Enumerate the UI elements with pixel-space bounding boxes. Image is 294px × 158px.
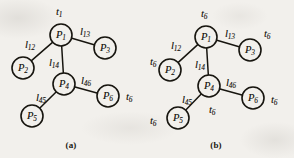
link-label-l45: l45 [182,95,192,106]
time-label-t6-at-P4: t6 [209,105,216,116]
link-label-l46: l46 [226,78,236,89]
panel-b: P1P2P3P4P5P6l12l13l14l45l46t6t6t6t6t6t6 … [147,0,294,158]
panel-b-labels: P1P2P3P4P5P6l12l13l14l45l46t6t6t6t6t6t6 [0,0,294,158]
time-label-t6-at-P1: t6 [201,9,208,20]
node-label-p4: P4 [204,81,214,92]
node-label-p6: P6 [248,93,258,104]
time-label-t6-at-P2: t6 [150,57,157,68]
time-label-subscript: 6 [153,61,157,69]
time-label-subscript: 6 [274,99,278,107]
link-label-subscript: 12 [174,45,181,53]
node-label-subscript: 5 [179,117,183,125]
node-label-subscript: 1 [207,36,211,44]
link-label-l12: l12 [171,41,181,52]
time-label-t6-at-P3: t6 [264,29,271,40]
time-label-subscript: 6 [212,109,216,117]
figure-container: P1P2P3P4P5P6l12l13l14l45l46t1t6 (a) P1P2… [0,0,294,158]
link-label-subscript: 45 [185,99,192,107]
node-label-subscript: 4 [210,85,214,93]
time-label-t6-at-P6: t6 [271,95,278,106]
node-label-subscript: 2 [171,69,175,77]
time-label-subscript: 6 [204,13,208,21]
link-label-subscript: 46 [229,82,236,90]
panel-b-caption: (b) [210,140,222,150]
node-label-p3: P3 [245,45,255,56]
time-label-t6-at-P5: t6 [150,116,157,127]
node-label-subscript: 3 [251,49,255,57]
node-label-p1: P1 [201,32,211,43]
link-label-subscript: 13 [228,33,235,41]
time-label-subscript: 6 [153,120,157,128]
link-label-l13: l13 [225,29,235,40]
node-label-p5: P5 [173,113,183,124]
node-label-subscript: 6 [254,97,258,105]
link-label-l14: l14 [195,60,205,71]
link-label-subscript: 14 [198,64,205,72]
node-label-p2: P2 [165,65,175,76]
time-label-subscript: 6 [267,33,271,41]
